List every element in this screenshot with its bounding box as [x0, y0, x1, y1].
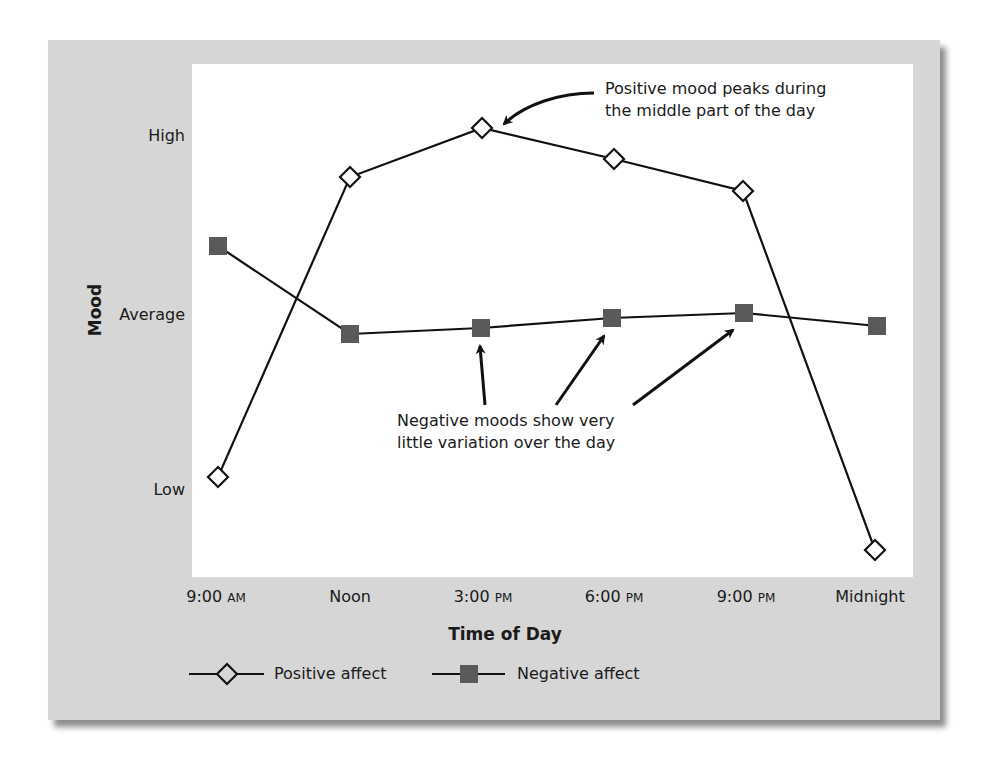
positive-affect-series — [208, 118, 885, 560]
negative-point-midnight — [868, 317, 886, 335]
annotation-arrows — [480, 93, 733, 405]
positive-point-6pm — [604, 149, 624, 169]
negative-point-6pm — [603, 309, 621, 327]
negative-affect-series — [209, 237, 886, 343]
negative-point-9pm — [735, 304, 753, 322]
negative-point-noon — [341, 325, 359, 343]
positive-annotation-arrow — [504, 93, 594, 124]
negative-annotation: Negative moods show very little variatio… — [397, 410, 615, 454]
positive-point-noon — [340, 167, 360, 187]
negative-point-9am — [209, 237, 227, 255]
y-tick-high: High — [65, 126, 185, 145]
negative-arrow-6pm — [556, 336, 604, 405]
y-axis-title: Mood — [85, 275, 105, 345]
negative-arrow-3pm — [480, 346, 485, 405]
x-tick-9am: 9:00 AM — [146, 587, 286, 606]
chart-svg — [0, 0, 989, 759]
positive-point-midnight — [865, 540, 885, 560]
positive-point-3pm — [472, 118, 492, 138]
negative-point-3pm — [472, 319, 490, 337]
x-tick-3pm: 3:00 PM — [413, 587, 553, 606]
y-tick-low: Low — [65, 480, 185, 499]
x-tick-midnight: Midnight — [800, 587, 940, 606]
positive-point-9am — [208, 467, 228, 487]
positive-point-9pm — [733, 181, 753, 201]
x-tick-9pm: 9:00 PM — [676, 587, 816, 606]
legend-square-icon — [460, 665, 478, 683]
legend-positive-affect: Positive affect — [274, 664, 387, 683]
legend-negative-affect: Negative affect — [517, 664, 640, 683]
y-tick-average: Average — [65, 305, 185, 324]
x-tick-6pm: 6:00 PM — [544, 587, 684, 606]
x-tick-noon: Noon — [280, 587, 420, 606]
negative-arrow-9pm — [633, 330, 733, 405]
legend-diamond-icon — [217, 664, 237, 684]
x-axis-title: Time of Day — [375, 624, 635, 644]
positive-annotation: Positive mood peaks during the middle pa… — [605, 78, 826, 122]
